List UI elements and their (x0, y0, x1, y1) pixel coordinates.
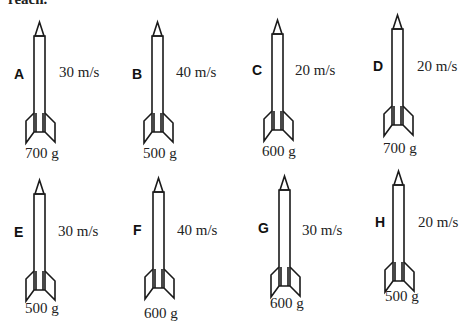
rocket-comparison-figure: reach. A 30 m/s 700 g B 40 m/s 500 g C 2… (0, 0, 473, 336)
rocket-icon (0, 0, 473, 336)
rocket-speed: 20 m/s (418, 214, 458, 231)
rocket-mass: 500 g (385, 288, 419, 305)
